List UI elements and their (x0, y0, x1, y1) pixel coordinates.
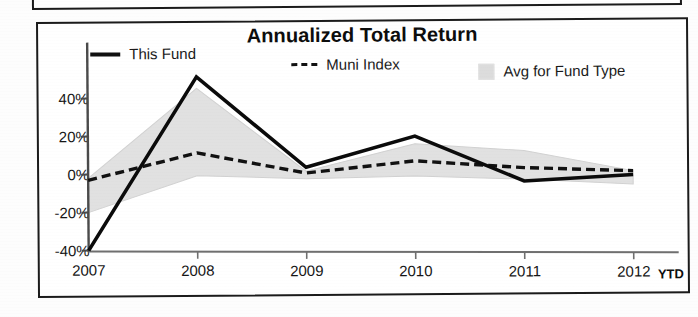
chart-canvas (38, 19, 688, 296)
series-band-avg-for-fund-type (87, 85, 633, 212)
x-axis-line (89, 247, 679, 256)
scanned-page: Annualized Total Return This Fund Muni I… (0, 0, 698, 317)
chart-frame: Annualized Total Return This Fund Muni I… (36, 17, 690, 298)
plot-area: 40%20%0%-20%-40% 20072008200920102011201… (38, 19, 688, 296)
y-axis-line (87, 43, 89, 252)
cutoff-box-above (32, 0, 682, 10)
